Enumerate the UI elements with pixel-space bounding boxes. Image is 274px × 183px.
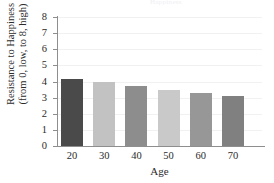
x-axis-tick-label: 20: [55, 150, 89, 161]
y-axis-tick-mark: [53, 33, 57, 34]
y-axis-tick-label: 3: [27, 93, 47, 104]
y-axis-tick-label: 6: [27, 44, 47, 55]
chart-title-remnant: Happiness: [150, 0, 260, 5]
x-axis-tick-label: 50: [152, 150, 186, 161]
y-axis-tick-label: 2: [27, 109, 47, 120]
y-axis-tick-label: 7: [27, 28, 47, 39]
y-axis-line: [57, 16, 58, 147]
y-axis-tick-mark: [53, 146, 57, 147]
bar: [190, 93, 212, 146]
x-axis-tick-label: 70: [216, 150, 250, 161]
bar: [158, 90, 180, 146]
y-axis-tick-mark: [53, 17, 57, 18]
bar-chart-figure: Happiness Resistance to Happiness (from …: [0, 0, 274, 183]
x-axis-tick-label: 30: [87, 150, 121, 161]
x-axis-tick-label: 40: [119, 150, 153, 161]
y-axis-tick-mark: [53, 98, 57, 99]
y-axis-tick-mark: [53, 65, 57, 66]
gridline: [57, 33, 262, 34]
x-axis-line: [57, 146, 265, 147]
y-axis-label-line-1: Resistance to Happiness: [5, 3, 18, 105]
plot-area: [57, 17, 262, 146]
y-axis-tick-label: 4: [27, 77, 47, 88]
x-axis-tick-label: 60: [184, 150, 218, 161]
y-axis-tick-label: 0: [27, 141, 47, 152]
bar: [222, 96, 244, 146]
x-axis-label: Age: [57, 165, 262, 177]
bar: [125, 86, 147, 146]
bar: [61, 79, 83, 146]
y-axis-tick-mark: [53, 130, 57, 131]
gridline: [57, 17, 262, 18]
y-axis-tick-mark: [53, 82, 57, 83]
bar: [93, 82, 115, 146]
y-axis-tick-mark: [53, 49, 57, 50]
gridline: [57, 82, 262, 83]
y-axis-tick-mark: [53, 114, 57, 115]
y-axis-tick-label: 8: [27, 12, 47, 23]
y-axis-tick-label: 1: [27, 125, 47, 136]
y-axis-tick-label: 5: [27, 60, 47, 71]
gridline: [57, 49, 262, 50]
gridline: [57, 65, 262, 66]
